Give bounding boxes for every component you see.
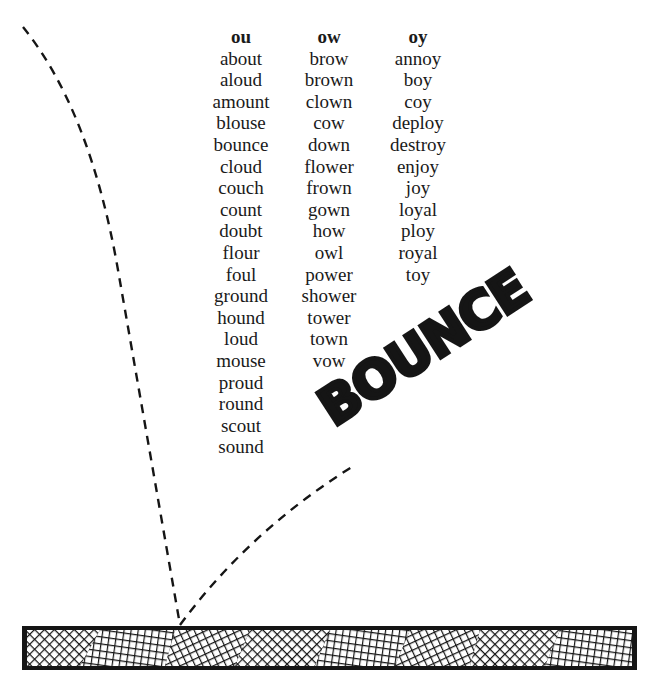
word-item: brow [281, 48, 377, 70]
word-item: annoy [370, 48, 466, 70]
word-item: vow [281, 350, 377, 372]
word-item: ploy [370, 220, 466, 242]
word-item: power [281, 264, 377, 286]
word-item: owl [281, 242, 377, 264]
word-item: cow [281, 112, 377, 134]
column-ou: ou about aloud amount blouse bounce clou… [193, 26, 289, 458]
word-item: how [281, 220, 377, 242]
word-item: enjoy [370, 156, 466, 178]
column-oy: oy annoy boy coy deploy destroy enjoy jo… [370, 26, 466, 285]
word-item: blouse [193, 112, 289, 134]
word-item: flour [193, 242, 289, 264]
word-item: about [193, 48, 289, 70]
word-item: brown [281, 69, 377, 91]
word-item: loyal [370, 199, 466, 221]
rebound-path [180, 465, 355, 625]
word-item: royal [370, 242, 466, 264]
word-item: gown [281, 199, 377, 221]
word-item: shower [281, 285, 377, 307]
word-item: bounce [193, 134, 289, 156]
word-item: sound [193, 436, 289, 458]
column-ow: ow brow brown clown cow down flower frow… [281, 26, 377, 372]
word-item: joy [370, 177, 466, 199]
word-item: destroy [370, 134, 466, 156]
word-item: count [193, 199, 289, 221]
word-item: amount [193, 91, 289, 113]
word-item: scout [193, 415, 289, 437]
word-item: round [193, 393, 289, 415]
word-item: loud [193, 328, 289, 350]
word-item: toy [370, 264, 466, 286]
word-item: coy [370, 91, 466, 113]
word-item: boy [370, 69, 466, 91]
word-item: hound [193, 307, 289, 329]
word-item: mouse [193, 350, 289, 372]
word-item: doubt [193, 220, 289, 242]
column-header: oy [370, 26, 466, 48]
word-item: couch [193, 177, 289, 199]
word-item: proud [193, 372, 289, 394]
word-item: tower [281, 307, 377, 329]
word-item: aloud [193, 69, 289, 91]
word-item: cloud [193, 156, 289, 178]
word-item: foul [193, 264, 289, 286]
word-item: town [281, 328, 377, 350]
word-item: clown [281, 91, 377, 113]
column-header: ow [281, 26, 377, 48]
word-item: flower [281, 156, 377, 178]
word-item: down [281, 134, 377, 156]
floor-bar [22, 626, 637, 670]
column-header: ou [193, 26, 289, 48]
word-item: deploy [370, 112, 466, 134]
falling-path [23, 27, 180, 625]
word-item: ground [193, 285, 289, 307]
word-item: frown [281, 177, 377, 199]
